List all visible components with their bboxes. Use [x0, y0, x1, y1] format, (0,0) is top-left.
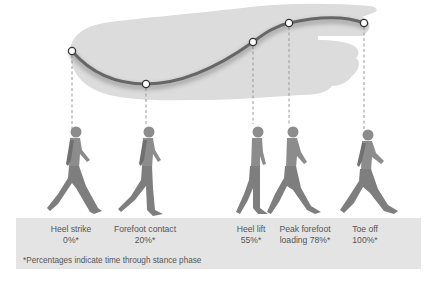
label-forefoot-contact: Forefoot contact 20%* — [114, 224, 176, 246]
point-forefoot-contact — [142, 80, 149, 87]
label-peak-forefoot-percent: loading 78%* — [279, 235, 330, 246]
figure-peak-forefoot — [267, 127, 321, 215]
point-heel-strike — [68, 47, 75, 54]
label-heel-strike: Heel strike 0%* — [51, 224, 92, 246]
label-peak-forefoot-name: Peak forefoot — [279, 224, 330, 235]
figure-forefoot-contact — [118, 127, 163, 217]
label-heel-lift-name: Heel lift — [237, 224, 266, 235]
figure-heel-lift — [236, 127, 268, 215]
footnote: *Percentages indicate time through stanc… — [23, 256, 201, 265]
figure-heel-strike — [47, 127, 102, 215]
point-toe-off — [360, 19, 367, 26]
walking-figures — [47, 127, 398, 217]
label-peak-forefoot: Peak forefoot loading 78%* — [279, 224, 330, 246]
point-peak-forefoot — [285, 19, 292, 26]
label-toe-off-percent: 100%* — [352, 235, 378, 246]
label-heel-lift-percent: 55%* — [237, 235, 266, 246]
label-toe-off-name: Toe off — [352, 224, 378, 235]
label-toe-off: Toe off 100%* — [352, 224, 378, 246]
label-forefoot-contact-percent: 20%* — [114, 235, 176, 246]
point-heel-lift — [249, 38, 256, 45]
label-forefoot-contact-name: Forefoot contact — [114, 224, 176, 235]
label-heel-strike-percent: 0%* — [51, 235, 92, 246]
figure-toe-off — [340, 130, 398, 215]
label-heel-lift: Heel lift 55%* — [237, 224, 266, 246]
label-heel-strike-name: Heel strike — [51, 224, 92, 235]
